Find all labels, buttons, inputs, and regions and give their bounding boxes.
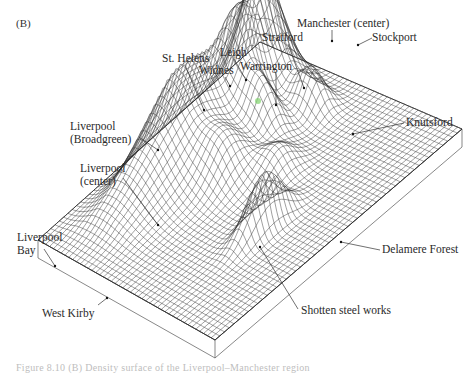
label-leigh: Leigh xyxy=(220,46,247,59)
leader-west-kirby xyxy=(98,298,107,305)
highlight-marker xyxy=(255,98,261,104)
label-warrington: Warrington xyxy=(240,60,292,73)
label-liverpool-center: Liverpool(center) xyxy=(80,162,125,188)
figure-caption: Figure 8.10 (B) Density surface of the L… xyxy=(16,362,310,373)
leader-delamere-forest xyxy=(341,242,380,250)
label-west-kirby: West Kirby xyxy=(42,307,94,320)
leader-knutsford xyxy=(353,123,404,134)
wireframe-surface-figure: (B) Manchester (center)StockportStratfor… xyxy=(0,0,475,376)
label-delamere-forest: Delamere Forest xyxy=(382,243,458,256)
label-widnes: Widnes xyxy=(199,64,234,77)
panel-label: (B) xyxy=(16,17,31,29)
label-manchester-center: Manchester (center) xyxy=(297,17,389,30)
leader-stockport xyxy=(358,38,372,45)
label-liverpool-bay: LiverpoolBay xyxy=(17,231,62,257)
label-shotten-steel-works: Shotten steel works xyxy=(301,304,391,317)
label-liverpool-broadgreen: Liverpool(Broadgreen) xyxy=(70,120,131,146)
label-stratford: Stratford xyxy=(262,31,303,44)
label-stockport: Stockport xyxy=(372,31,417,44)
leader-liverpool-center xyxy=(123,178,158,225)
label-knutsford: Knutsford xyxy=(406,116,453,129)
